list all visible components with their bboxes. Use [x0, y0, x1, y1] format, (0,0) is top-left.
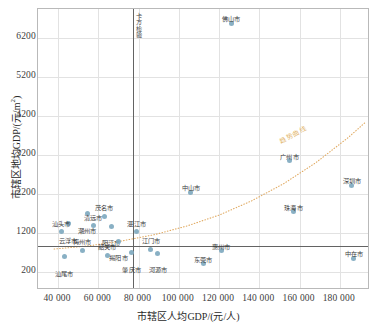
x-tick-label: 180 000: [309, 293, 369, 303]
data-point-label: 清远市: [84, 213, 102, 222]
data-point-marker[interactable]: [109, 224, 114, 229]
y-axis-title: 市辖区地均GDP/(元/m2): [8, 38, 23, 258]
y-tick-label: 200: [21, 265, 36, 275]
data-point-marker[interactable]: [155, 251, 160, 256]
data-point-label: 湛江市: [127, 219, 145, 228]
data-point-label: 揭阳市: [109, 253, 127, 262]
data-point-label: 肇庆市: [122, 265, 140, 274]
data-point-marker[interactable]: [59, 229, 64, 234]
x-axis-title: 市辖区人均GDP/(元/人): [0, 308, 377, 323]
data-point-label: 珠海市: [284, 203, 302, 212]
data-point-label: 中在市: [345, 249, 363, 258]
data-point-label: 汕尾市: [55, 269, 73, 278]
data-point-label: 江门市: [142, 236, 160, 245]
data-point-marker[interactable]: [105, 253, 110, 258]
data-point-marker[interactable]: [102, 214, 107, 219]
data-point-label: 惠州市: [212, 242, 230, 251]
data-point-marker[interactable]: [116, 239, 121, 244]
data-point-label: 中山市: [182, 183, 200, 192]
data-point-label: 汕头市: [52, 219, 70, 228]
scatter-chart-figure: 卡方检验 趋势曲线 佛山市广州市深圳市中山市珠海市惠州市东莞市中在市湛江市阳江市…: [0, 0, 377, 329]
vertical-reference-line-label: 卡方检验: [135, 13, 144, 39]
data-point-label: 广州市: [280, 152, 298, 161]
data-point-marker[interactable]: [91, 223, 96, 228]
data-point-marker[interactable]: [80, 248, 85, 253]
data-point-label: 东莞市: [194, 255, 212, 264]
data-point-label: 深圳市: [343, 176, 361, 185]
trend-curve: [38, 9, 370, 290]
data-point-label: 茂名市: [95, 203, 113, 212]
data-point-label: 梅州市: [73, 237, 91, 246]
data-point-label: 河源市: [149, 265, 167, 274]
data-point-label: 佛山市: [222, 14, 240, 23]
plot-area: 卡方检验 趋势曲线 佛山市广州市深圳市中山市珠海市惠州市东莞市中在市湛江市阳江市…: [37, 8, 369, 289]
data-point-label: 韶关市: [98, 242, 116, 251]
